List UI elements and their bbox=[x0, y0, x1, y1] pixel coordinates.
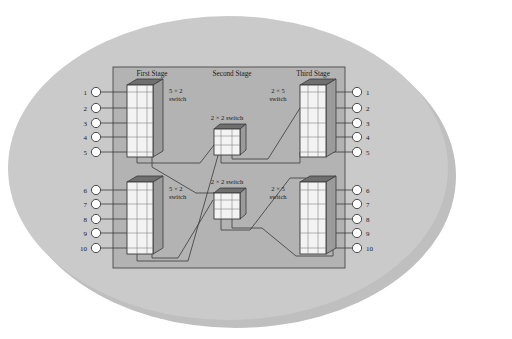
output-port-circle[interactable] bbox=[352, 118, 361, 127]
switch-second-bottom[interactable]: 2 × 2 switch bbox=[211, 178, 246, 219]
stage-header-first: First Stage bbox=[137, 70, 168, 78]
switch-second-bottom-label: 2 × 2 switch bbox=[211, 178, 244, 185]
figure-canvas: First Stage Second Stage Third Stage bbox=[0, 0, 512, 339]
output-port-circle[interactable] bbox=[352, 185, 361, 194]
output-port-circle[interactable] bbox=[352, 147, 361, 156]
output-port-circle[interactable] bbox=[352, 214, 361, 223]
switch-third-top-label-line1: 2 × 5 bbox=[271, 87, 285, 94]
input-port-circle[interactable] bbox=[91, 199, 100, 208]
output-port-label: 5 bbox=[366, 149, 370, 157]
input-port-circle[interactable] bbox=[91, 132, 100, 141]
switch-first-top-front bbox=[127, 85, 153, 157]
input-port-label: 10 bbox=[80, 245, 88, 253]
input-port-label: 6 bbox=[84, 187, 88, 195]
output-port-circle[interactable] bbox=[352, 132, 361, 141]
input-port-circle[interactable] bbox=[91, 103, 100, 112]
input-port-label: 5 bbox=[84, 149, 88, 157]
switch-second-top-front bbox=[214, 129, 240, 155]
output-port-label: 1 bbox=[366, 89, 370, 97]
switch-first-top-sideface bbox=[153, 79, 163, 157]
input-port-circle[interactable] bbox=[91, 185, 100, 194]
output-port-circle[interactable] bbox=[352, 87, 361, 96]
switch-first-top-label-line1: 5 × 2 bbox=[169, 87, 183, 94]
switch-first-bottom-sideface bbox=[153, 176, 163, 254]
input-port-circle[interactable] bbox=[91, 118, 100, 127]
switch-third-top-sideface bbox=[326, 79, 336, 157]
input-port-label: 3 bbox=[84, 120, 88, 128]
output-port-label: 2 bbox=[366, 105, 370, 113]
input-port-label: 7 bbox=[84, 201, 88, 209]
output-port-label: 6 bbox=[366, 187, 370, 195]
clos-network-diagram: First Stage Second Stage Third Stage bbox=[0, 0, 512, 339]
output-port-circle[interactable] bbox=[352, 103, 361, 112]
switch-second-bottom-front bbox=[214, 193, 240, 219]
stage-header-third: Third Stage bbox=[296, 70, 330, 78]
switch-first-bottom-label-line1: 5 × 2 bbox=[169, 185, 183, 192]
switch-third-bottom-label-line2: switch bbox=[269, 193, 287, 200]
output-port-circle[interactable] bbox=[352, 228, 361, 237]
output-port-label: 3 bbox=[366, 120, 370, 128]
switch-first-bottom-label-line2: switch bbox=[169, 193, 187, 200]
switch-third-bottom-label-line1: 2 × 5 bbox=[271, 185, 285, 192]
output-port-label: 9 bbox=[366, 230, 370, 238]
input-port-circle[interactable] bbox=[91, 147, 100, 156]
input-port-circle[interactable] bbox=[91, 214, 100, 223]
switch-third-top-front bbox=[300, 85, 326, 157]
input-port-label: 2 bbox=[84, 105, 88, 113]
input-port-label: 4 bbox=[84, 134, 88, 142]
switch-second-bottom-sideface bbox=[240, 188, 246, 219]
stage-header-second: Second Stage bbox=[213, 70, 252, 78]
switch-first-top-label-line2: switch bbox=[169, 95, 187, 102]
input-port-label: 1 bbox=[84, 89, 88, 97]
output-port-label: 10 bbox=[366, 245, 374, 253]
input-port-label: 9 bbox=[84, 230, 88, 238]
output-port-circle[interactable] bbox=[352, 199, 361, 208]
switch-third-bottom-sideface bbox=[326, 176, 336, 254]
switch-second-top-label: 2 × 2 switch bbox=[211, 114, 244, 121]
input-port-circle[interactable] bbox=[91, 87, 100, 96]
switch-third-bottom-front bbox=[300, 182, 326, 254]
switch-third-top-label-line2: switch bbox=[269, 95, 287, 102]
output-port-label: 4 bbox=[366, 134, 370, 142]
switch-second-top-sideface bbox=[240, 124, 246, 155]
input-port-circle[interactable] bbox=[91, 228, 100, 237]
output-port-circle[interactable] bbox=[352, 243, 361, 252]
output-port-label: 8 bbox=[366, 216, 370, 224]
switch-second-top[interactable]: 2 × 2 switch bbox=[211, 114, 246, 155]
switch-first-bottom-front bbox=[127, 182, 153, 254]
input-port-label: 8 bbox=[84, 216, 88, 224]
input-port-circle[interactable] bbox=[91, 243, 100, 252]
output-port-label: 7 bbox=[366, 201, 370, 209]
